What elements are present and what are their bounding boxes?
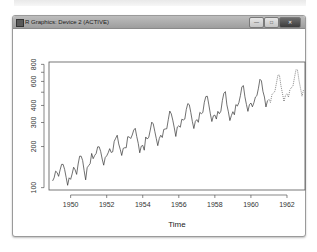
x-tick-label: 1958 bbox=[207, 201, 223, 208]
y-tick-label: 300 bbox=[30, 117, 37, 129]
x-axis: 1950195219541956195819601962 bbox=[63, 195, 295, 208]
x-tick-label: 1950 bbox=[63, 201, 79, 208]
y-tick-label: 400 bbox=[30, 100, 37, 112]
x-tick-label: 1954 bbox=[135, 201, 151, 208]
x-axis-label: Time bbox=[168, 220, 186, 229]
x-tick-label: 1960 bbox=[243, 201, 259, 208]
x-tick-label: 1956 bbox=[171, 201, 187, 208]
observed-series-line bbox=[53, 79, 268, 185]
x-tick-label: 1962 bbox=[279, 201, 295, 208]
y-axis: 100200300400600800 bbox=[30, 58, 44, 193]
forecast-series-line bbox=[267, 70, 303, 103]
y-tick-label: 100 bbox=[30, 182, 37, 194]
y-tick-label: 600 bbox=[30, 75, 37, 87]
y-tick-label: 200 bbox=[30, 141, 37, 153]
y-tick-label: 800 bbox=[30, 58, 37, 70]
x-tick-label: 1952 bbox=[99, 201, 115, 208]
time-series-plot: 100200300400600800 195019521954195619581… bbox=[0, 0, 317, 252]
plot-frame bbox=[49, 62, 305, 190]
